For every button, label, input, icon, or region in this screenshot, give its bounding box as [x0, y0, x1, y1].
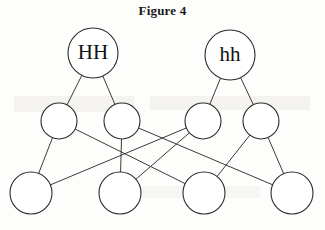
node-b3	[183, 172, 225, 214]
node-circle-b2	[99, 172, 141, 214]
node-label-hh: HH	[78, 40, 108, 64]
edge-m4-b4	[268, 138, 284, 174]
node-circle-m2	[104, 103, 140, 139]
node-m3	[185, 103, 221, 139]
node-layer: HHhh	[10, 28, 313, 214]
node-b4	[271, 172, 313, 214]
figure-container: Figure 4 HHhh	[0, 0, 325, 230]
edge-hh-m1	[67, 75, 82, 105]
node-hh: hh	[205, 30, 255, 80]
node-m1	[41, 103, 77, 139]
node-m4	[243, 103, 279, 139]
node-label-hh: hh	[220, 42, 242, 66]
node-circle-b3	[183, 172, 225, 214]
node-m2	[104, 103, 140, 139]
node-circle-m1	[41, 103, 77, 139]
node-b2	[99, 172, 141, 214]
pedigree-diagram-canvas: HHhh	[0, 0, 325, 230]
node-hh: HH	[68, 28, 118, 78]
edge-hh-m4	[241, 78, 254, 105]
node-circle-m4	[243, 103, 279, 139]
edge-m1-b1	[39, 138, 53, 174]
edge-m4-b3	[217, 135, 250, 176]
node-circle-b1	[10, 172, 52, 214]
node-circle-m3	[185, 103, 221, 139]
node-circle-b4	[271, 172, 313, 214]
node-b1	[10, 172, 52, 214]
edge-hh-m2	[103, 76, 115, 104]
edge-hh-m3	[210, 78, 221, 104]
